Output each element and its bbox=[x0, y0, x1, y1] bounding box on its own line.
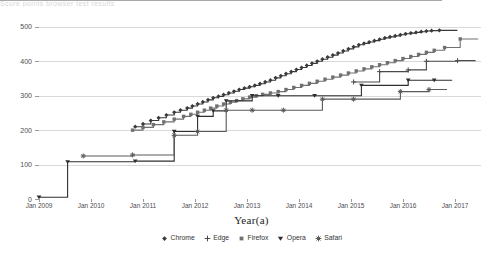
legend-item-safari[interactable]: Safari bbox=[315, 234, 342, 242]
data-point bbox=[203, 108, 206, 111]
y-tick-label: 100 bbox=[2, 161, 32, 168]
data-point bbox=[81, 153, 86, 158]
series-firefox bbox=[131, 37, 478, 132]
data-point bbox=[172, 110, 176, 114]
data-point bbox=[394, 59, 397, 62]
data-point bbox=[401, 57, 404, 60]
diamond-icon bbox=[161, 235, 168, 242]
data-point bbox=[284, 88, 287, 91]
data-point bbox=[437, 28, 441, 32]
legend-label: Firefox bbox=[248, 234, 269, 242]
y-tick-mark bbox=[35, 130, 39, 131]
x-tick-mark bbox=[403, 199, 404, 202]
data-point bbox=[362, 67, 365, 70]
data-point bbox=[455, 58, 460, 63]
x-tick-label: Jan 2011 bbox=[117, 202, 169, 210]
series-path bbox=[135, 30, 457, 126]
data-point bbox=[341, 49, 345, 53]
x-tick-mark bbox=[91, 199, 92, 202]
data-point bbox=[386, 61, 389, 64]
data-point bbox=[409, 31, 413, 35]
data-point bbox=[336, 51, 340, 55]
y-tick-mark bbox=[35, 61, 39, 62]
data-point bbox=[320, 97, 325, 102]
data-point bbox=[424, 59, 429, 64]
x-tick-label: Jan 2016 bbox=[377, 202, 429, 210]
x-tick-label: Jan 2014 bbox=[273, 202, 325, 210]
legend-label: Chrome bbox=[171, 234, 195, 242]
data-point bbox=[409, 55, 412, 58]
data-point bbox=[248, 95, 251, 98]
data-point bbox=[289, 70, 293, 74]
data-point bbox=[414, 30, 418, 34]
data-point bbox=[398, 89, 403, 94]
data-point bbox=[316, 80, 319, 83]
data-point bbox=[215, 104, 218, 107]
data-point bbox=[281, 108, 286, 113]
triangle-icon bbox=[277, 235, 284, 242]
data-point bbox=[346, 47, 350, 51]
legend-label: Opera bbox=[287, 234, 306, 242]
data-point bbox=[250, 108, 255, 113]
data-point bbox=[315, 59, 319, 63]
legend-item-edge[interactable]: Edge bbox=[204, 234, 229, 242]
data-point bbox=[222, 102, 225, 105]
data-point bbox=[131, 128, 134, 131]
data-point bbox=[339, 73, 342, 76]
data-point bbox=[299, 65, 303, 69]
data-point bbox=[284, 72, 288, 76]
data-point bbox=[426, 87, 431, 92]
series-path bbox=[39, 80, 452, 197]
data-point bbox=[130, 152, 135, 157]
data-point bbox=[162, 120, 165, 123]
x-tick-label: Jan 2010 bbox=[65, 202, 117, 210]
data-point bbox=[190, 104, 194, 108]
data-point bbox=[310, 61, 314, 65]
x-tick-label: Jan 2013 bbox=[221, 202, 273, 210]
data-point bbox=[201, 100, 205, 104]
legend-item-chrome[interactable]: Chrome bbox=[161, 234, 195, 242]
legend-item-firefox[interactable]: Firefox bbox=[238, 234, 268, 242]
data-point bbox=[351, 45, 355, 49]
series-path bbox=[83, 90, 447, 156]
data-point bbox=[417, 53, 420, 56]
data-point bbox=[172, 133, 177, 138]
data-point bbox=[300, 84, 303, 87]
data-point bbox=[178, 108, 182, 112]
data-point bbox=[195, 129, 200, 134]
x-tick-mark bbox=[39, 199, 40, 202]
data-point bbox=[325, 55, 329, 59]
series-path bbox=[354, 61, 476, 82]
data-point bbox=[378, 63, 381, 66]
x-tick-mark bbox=[351, 199, 352, 202]
data-point bbox=[357, 43, 361, 47]
plot-area bbox=[39, 20, 481, 199]
x-tick-mark bbox=[455, 199, 456, 202]
data-point bbox=[195, 102, 199, 106]
data-point bbox=[323, 78, 326, 81]
data-point bbox=[459, 37, 462, 40]
data-point bbox=[331, 75, 334, 78]
data-point bbox=[173, 117, 176, 120]
data-point bbox=[182, 115, 185, 118]
x-tick-label: Jan 2009 bbox=[13, 202, 65, 210]
data-point bbox=[425, 51, 428, 54]
legend-item-opera[interactable]: Opera bbox=[277, 234, 305, 242]
y-tick-mark bbox=[35, 27, 39, 28]
data-point bbox=[152, 123, 155, 126]
data-point bbox=[355, 69, 358, 72]
series-safari bbox=[81, 87, 447, 159]
x-tick-mark bbox=[195, 199, 196, 202]
cross-icon bbox=[204, 235, 211, 242]
data-point bbox=[241, 97, 244, 100]
y-tick-mark bbox=[35, 165, 39, 166]
legend-label: Edge bbox=[213, 234, 229, 242]
data-point bbox=[424, 29, 428, 33]
data-point bbox=[305, 63, 309, 67]
chart-figure: Score points browser test results Score … bbox=[0, 0, 503, 255]
y-tick-label: 400 bbox=[2, 58, 32, 65]
data-point bbox=[429, 29, 433, 33]
data-point bbox=[351, 79, 356, 84]
data-point bbox=[133, 125, 137, 129]
data-point bbox=[185, 106, 189, 110]
